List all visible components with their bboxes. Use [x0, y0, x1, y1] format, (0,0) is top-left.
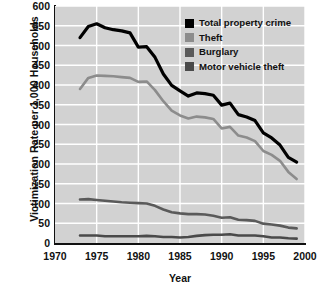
- y-tick-label: 400: [18, 79, 50, 91]
- property-crime-victimization-chart: Victimization Rate per 1,000 Households …: [0, 0, 323, 301]
- x-tick-label: 1985: [168, 250, 191, 262]
- legend-item-label: Motor vehicle theft: [199, 62, 284, 72]
- chart-legend: Total property crimeTheftBurglaryMotor v…: [185, 16, 291, 74]
- legend-item[interactable]: Theft: [185, 31, 291, 46]
- legend-item[interactable]: Motor vehicle theft: [185, 60, 291, 75]
- legend-swatch-icon: [185, 33, 194, 42]
- y-tick-label: 450: [18, 59, 50, 71]
- x-axis-line: [54, 243, 306, 245]
- legend-item-label: Theft: [199, 33, 222, 43]
- legend-item[interactable]: Total property crime: [185, 16, 291, 31]
- y-tick-label: 200: [18, 158, 50, 170]
- y-tick-label: 100: [18, 198, 50, 210]
- y-tick-label: 0: [18, 237, 50, 249]
- y-tick-label: 600: [18, 0, 50, 12]
- legend-item-label: Total property crime: [199, 18, 291, 28]
- legend-item[interactable]: Burglary: [185, 45, 291, 60]
- y-tick-label: 350: [18, 99, 50, 111]
- series-line: [80, 234, 297, 238]
- x-tick-label: 2000: [293, 250, 316, 262]
- x-tick-label: 1970: [43, 250, 66, 262]
- y-tick-label: 500: [18, 40, 50, 52]
- y-tick-label: 250: [18, 138, 50, 150]
- x-tick-label: 1975: [85, 250, 108, 262]
- x-tick-label: 1990: [210, 250, 233, 262]
- x-tick-label: 1995: [252, 250, 275, 262]
- legend-swatch-icon: [185, 62, 194, 71]
- x-tick-label: 1980: [127, 250, 150, 262]
- y-tick-label: 50: [18, 217, 50, 229]
- x-axis-tick-labels: 1970197519801985199019952000: [0, 250, 323, 266]
- legend-item-label: Burglary: [199, 47, 238, 57]
- y-tick-label: 550: [18, 20, 50, 32]
- legend-swatch-icon: [185, 48, 194, 57]
- y-tick-label: 150: [18, 178, 50, 190]
- legend-swatch-icon: [185, 19, 194, 28]
- x-axis-title: Year: [55, 272, 305, 284]
- y-tick-label: 300: [18, 119, 50, 131]
